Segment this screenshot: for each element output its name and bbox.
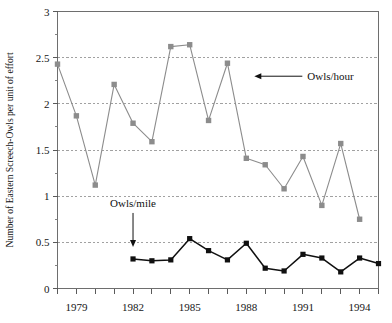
data-point-marker xyxy=(338,269,343,274)
chart-annotations: Owls/hourOwls/mile xyxy=(110,70,354,247)
x-tick-label: 1985 xyxy=(179,301,202,313)
chart-figure: Owls/hourOwls/mile 00.511.522.5319791982… xyxy=(0,0,392,323)
data-point-marker xyxy=(168,44,173,49)
data-point-marker xyxy=(225,257,230,262)
data-point-marker xyxy=(357,217,362,222)
data-point-marker xyxy=(187,42,192,47)
y-tick-label: 2.5 xyxy=(36,52,50,64)
data-point-marker xyxy=(149,139,154,144)
data-point-marker xyxy=(111,82,116,87)
x-tick-label: 1994 xyxy=(349,301,372,313)
y-tick-label: 2 xyxy=(44,98,50,110)
chart-canvas: Owls/hourOwls/mile 00.511.522.5319791982… xyxy=(0,0,392,323)
data-point-marker xyxy=(376,261,381,266)
x-tick-label: 1991 xyxy=(292,301,314,313)
x-tick-label: 1979 xyxy=(65,301,88,313)
data-point-marker xyxy=(187,236,192,241)
x-tick-label: 1982 xyxy=(122,301,144,313)
data-point-marker xyxy=(244,156,249,161)
y-tick-label: 0 xyxy=(44,283,50,295)
data-point-marker xyxy=(74,113,79,118)
y-axis-ticks xyxy=(53,12,58,289)
annotation-arrow-head xyxy=(130,240,136,247)
data-point-marker xyxy=(244,241,249,246)
data-point-marker xyxy=(225,61,230,66)
data-point-marker xyxy=(338,141,343,146)
data-point-marker xyxy=(206,248,211,253)
data-point-marker xyxy=(263,266,268,271)
y-tick-label: 1.5 xyxy=(36,144,50,156)
annotation-arrow-head xyxy=(254,73,261,79)
data-point-marker xyxy=(168,257,173,262)
x-tick-label: 1988 xyxy=(235,301,258,313)
axis-labels: 00.511.522.53197919821985198819911994Num… xyxy=(4,6,372,313)
series-owls-per-hour xyxy=(55,42,363,222)
y-tick-label: 1 xyxy=(44,190,50,202)
data-point-marker xyxy=(319,255,324,260)
y-axis-title: Number of Eastern Screech-Owls per unit … xyxy=(4,52,15,247)
series-owls-per-mile xyxy=(130,236,381,274)
data-point-marker xyxy=(300,154,305,159)
y-tick-label: 0.5 xyxy=(36,236,50,248)
annotation-label: Owls/mile xyxy=(110,197,156,209)
data-point-marker xyxy=(93,182,98,187)
annotation-label: Owls/hour xyxy=(307,70,354,82)
data-point-marker xyxy=(149,258,154,263)
data-point-marker xyxy=(281,268,286,273)
data-point-marker xyxy=(300,252,305,257)
data-point-marker xyxy=(55,61,60,66)
y-tick-label: 3 xyxy=(44,6,50,18)
data-point-marker xyxy=(206,118,211,123)
data-point-marker xyxy=(319,203,324,208)
data-point-marker xyxy=(130,121,135,126)
data-point-marker xyxy=(281,186,286,191)
x-axis-ticks xyxy=(58,289,379,294)
data-point-marker xyxy=(357,255,362,260)
series-line xyxy=(133,239,378,272)
data-point-marker xyxy=(130,256,135,261)
data-point-marker xyxy=(263,162,268,167)
